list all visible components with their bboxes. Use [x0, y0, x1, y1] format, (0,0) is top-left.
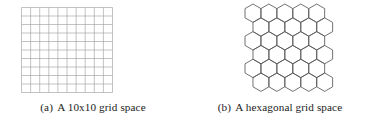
subfigure-b-tag: (b) — [218, 101, 231, 113]
hex-cell — [301, 73, 317, 91]
hexagonal-grid-graphic — [244, 3, 338, 97]
figure-row: (a) A 10x10 grid space (b) A hexagonal g… — [0, 0, 373, 125]
subfigure-b-caption: (b) A hexagonal grid space — [187, 100, 373, 115]
subfigure-a-caption-text: A 10x10 grid space — [57, 101, 146, 113]
subfigure-a-caption: (a) A 10x10 grid space — [0, 100, 186, 115]
hex-cell — [285, 73, 301, 91]
subfigure-b: (b) A hexagonal grid space — [187, 0, 373, 125]
grid-figure-canvas — [0, 0, 186, 98]
square-grid-graphic — [21, 7, 113, 93]
subfigure-a: (a) A 10x10 grid space — [0, 0, 186, 125]
subfigure-a-tag: (a) — [40, 101, 53, 113]
hex-cell — [253, 73, 269, 91]
hex-figure-canvas — [187, 0, 373, 98]
hex-cell — [317, 73, 333, 91]
subfigure-b-caption-text: A hexagonal grid space — [235, 101, 342, 113]
hex-cell — [269, 73, 285, 91]
